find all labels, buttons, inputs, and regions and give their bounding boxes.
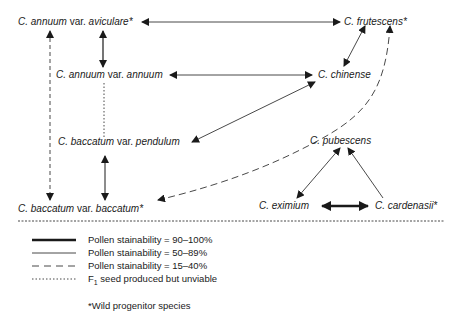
var: var. xyxy=(74,203,96,214)
thin-line-swatch xyxy=(30,247,80,259)
node-cardenasii: C. cardenasii* xyxy=(375,200,437,212)
variety: pendulum xyxy=(136,136,180,147)
node-baccatum-pendulum: C. baccatum var. pendulum xyxy=(58,136,180,148)
genus: C. annuum xyxy=(56,69,105,80)
node-pubescens: C. pubescens xyxy=(310,135,371,147)
node-eximium: C. eximium xyxy=(259,200,309,212)
node-frutescens: C. frutescens* xyxy=(344,16,407,28)
edge-chinense-pendulum xyxy=(192,82,315,142)
edge-frutescens-chinense xyxy=(344,26,365,66)
dotted-line-swatch xyxy=(30,273,80,285)
edge-pubescens-eximium xyxy=(297,148,340,198)
dashed-line-swatch xyxy=(30,260,80,272)
node-annuum-aviculare: C. annuum var. aviculare* xyxy=(18,16,133,28)
legend-label: F1 seed produced but unviable xyxy=(88,273,217,289)
node-baccatum-baccatum: C. baccatum var. baccatum* xyxy=(18,203,143,215)
genus: C. baccatum xyxy=(18,203,74,214)
node-chinense: C. chinense xyxy=(318,69,371,81)
var: var. xyxy=(114,136,136,147)
legend-label: Pollen stainability = 50–89% xyxy=(88,247,207,259)
footnote: *Wild progenitor species xyxy=(88,300,190,311)
variety: annuum xyxy=(127,69,163,80)
thick-line-swatch xyxy=(30,234,80,246)
legend-label: Pollen stainability = 15–40% xyxy=(88,260,207,272)
genus: C. baccatum xyxy=(58,136,114,147)
edge-cardenasii-pubescens xyxy=(348,148,383,198)
var: var. xyxy=(105,69,127,80)
label-suffix: seed produced but unviable xyxy=(98,273,217,284)
variety: aviculare* xyxy=(89,16,133,27)
var: var. xyxy=(67,16,89,27)
variety: baccatum* xyxy=(96,203,143,214)
node-annuum-annuum: C. annuum var. annuum xyxy=(56,69,163,81)
edge-frutescens-baccatum xyxy=(158,26,390,200)
genus: C. annuum xyxy=(18,16,67,27)
crossing-diagram xyxy=(0,0,453,320)
legend-label: Pollen stainability = 90–100% xyxy=(88,234,212,246)
